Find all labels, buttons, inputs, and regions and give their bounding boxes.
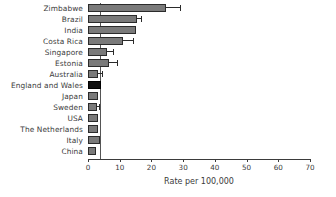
error-bar-cap <box>141 16 142 23</box>
error-bar-line <box>166 7 180 8</box>
bar-row <box>88 36 310 47</box>
x-tick <box>151 159 152 162</box>
bar <box>88 59 109 67</box>
x-tick-label: 50 <box>242 164 251 172</box>
category-label: India <box>64 25 83 36</box>
x-tick-label: 0 <box>86 164 91 172</box>
error-bar-line <box>123 40 133 41</box>
bar <box>88 70 98 78</box>
bar <box>88 4 166 12</box>
error-bar-cap <box>117 60 118 67</box>
bar-row <box>88 69 310 80</box>
category-label: Japan <box>62 91 83 102</box>
x-tick <box>278 159 279 162</box>
category-label: England and Wales <box>11 80 83 91</box>
category-label: Costa Rica <box>43 36 83 47</box>
bar-row <box>88 47 310 58</box>
x-tick <box>120 159 121 162</box>
x-axis-title: Rate per 100,000 <box>88 177 310 186</box>
x-tick <box>247 159 248 162</box>
bar-row <box>88 102 310 113</box>
bar-row <box>88 124 310 135</box>
bar-row <box>88 80 310 91</box>
bar-row <box>88 91 310 102</box>
category-label: Zimbabwe <box>43 3 83 14</box>
x-axis-line <box>88 159 310 160</box>
category-label: Sweden <box>53 102 83 113</box>
bar <box>88 125 98 133</box>
x-tick-label: 40 <box>210 164 219 172</box>
x-tick <box>88 159 89 162</box>
x-tick-label: 10 <box>115 164 124 172</box>
category-label: Singapore <box>45 47 83 58</box>
x-tick-label: 20 <box>147 164 156 172</box>
category-label: Italy <box>66 135 83 146</box>
bar <box>88 114 98 122</box>
bar <box>88 136 100 144</box>
error-bar-cap <box>113 49 114 56</box>
error-bar-line <box>109 62 117 63</box>
category-label: USA <box>67 113 83 124</box>
bar <box>88 26 136 34</box>
bar <box>88 103 97 111</box>
bar-row <box>88 135 310 146</box>
bar <box>88 92 98 100</box>
error-bar-cap <box>180 5 181 12</box>
error-bar-cap <box>133 38 134 45</box>
x-tick <box>215 159 216 162</box>
bar-row <box>88 25 310 36</box>
x-tick-label: 70 <box>305 164 314 172</box>
category-label: The Netherlands <box>20 124 83 135</box>
bar <box>88 37 123 45</box>
bar-row <box>88 113 310 124</box>
x-tick-label: 60 <box>274 164 283 172</box>
bar-chart: ZimbabweBrazilIndiaCosta RicaSingaporeEs… <box>0 0 336 197</box>
bar-row <box>88 146 310 157</box>
bar <box>88 147 96 155</box>
category-label: Brazil <box>62 14 83 25</box>
bar <box>88 81 101 89</box>
category-label: China <box>61 146 83 157</box>
category-axis-labels: ZimbabweBrazilIndiaCosta RicaSingaporeEs… <box>0 3 85 158</box>
category-label: Australia <box>49 69 83 80</box>
x-tick <box>310 159 311 162</box>
error-bar-cap <box>99 104 100 111</box>
bar <box>88 48 107 56</box>
error-bar-cap <box>102 71 103 78</box>
bar-row <box>88 58 310 69</box>
category-label: Estonia <box>55 58 83 69</box>
bar <box>88 15 137 23</box>
bar-row <box>88 14 310 25</box>
x-tick <box>183 159 184 162</box>
bar-row <box>88 3 310 14</box>
x-tick-label: 30 <box>179 164 188 172</box>
plot-area <box>88 3 310 159</box>
